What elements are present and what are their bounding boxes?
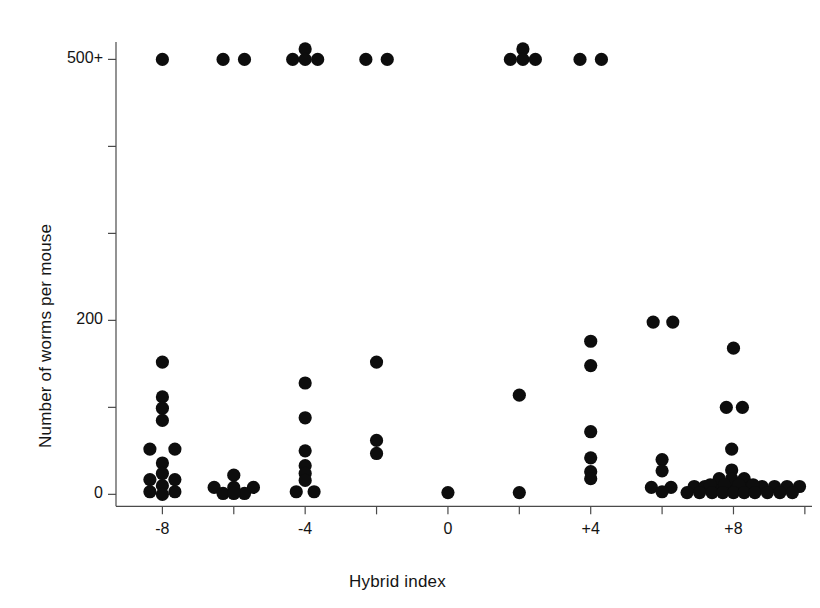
data-point xyxy=(290,485,303,498)
data-point-layer xyxy=(143,42,806,501)
data-point xyxy=(370,447,383,460)
data-point xyxy=(595,53,608,66)
data-point xyxy=(727,342,740,355)
data-point xyxy=(573,53,586,66)
data-point xyxy=(504,53,517,66)
data-point xyxy=(156,402,169,415)
x-tick-label: +8 xyxy=(703,520,763,538)
x-tick-label: +4 xyxy=(561,520,621,538)
data-point xyxy=(513,486,526,499)
plot-canvas xyxy=(0,0,820,608)
data-point xyxy=(216,53,229,66)
data-point xyxy=(370,356,383,369)
data-point xyxy=(143,473,156,486)
data-point xyxy=(359,53,372,66)
axis-tick-marks xyxy=(108,59,805,514)
data-point xyxy=(655,485,668,498)
data-point xyxy=(168,485,181,498)
data-point xyxy=(584,425,597,438)
data-point xyxy=(748,486,761,499)
x-axis-title: Hybrid index xyxy=(349,572,446,592)
data-point xyxy=(299,53,312,66)
data-point xyxy=(299,411,312,424)
data-point xyxy=(238,53,251,66)
data-point xyxy=(786,486,799,499)
data-point xyxy=(529,53,542,66)
data-point xyxy=(168,473,181,486)
data-point xyxy=(666,316,679,329)
y-tick-label: 200 xyxy=(48,310,103,328)
data-point xyxy=(286,53,299,66)
data-point xyxy=(516,53,529,66)
data-point xyxy=(513,389,526,402)
data-point xyxy=(381,53,394,66)
data-point xyxy=(299,444,312,457)
data-point xyxy=(736,401,749,414)
data-point xyxy=(647,316,660,329)
data-point xyxy=(584,359,597,372)
data-point xyxy=(307,485,320,498)
x-tick-label: -4 xyxy=(275,520,335,538)
y-axis-title: Number of worms per mouse xyxy=(36,224,56,448)
data-point xyxy=(227,469,240,482)
data-point xyxy=(156,488,169,501)
data-point xyxy=(773,486,786,499)
data-point xyxy=(680,486,693,499)
data-point xyxy=(156,414,169,427)
y-tick-label: 500+ xyxy=(48,49,103,67)
data-point xyxy=(584,472,597,485)
data-point xyxy=(156,390,169,403)
x-tick-label: -8 xyxy=(132,520,192,538)
data-point xyxy=(143,485,156,498)
data-point xyxy=(168,443,181,456)
scatter-plot-figure: 0200500+ -8-40+4+8 Number of worms per m… xyxy=(0,0,820,608)
y-tick-label: 0 xyxy=(48,484,103,502)
data-point xyxy=(584,451,597,464)
data-point xyxy=(761,486,774,499)
data-point xyxy=(156,467,169,480)
data-point xyxy=(156,356,169,369)
data-point xyxy=(720,401,733,414)
data-point xyxy=(655,464,668,477)
data-point xyxy=(693,486,706,499)
data-point xyxy=(370,434,383,447)
x-tick-label: 0 xyxy=(418,520,478,538)
data-point xyxy=(441,486,454,499)
data-point xyxy=(584,335,597,348)
data-point xyxy=(299,474,312,487)
data-point xyxy=(655,453,668,466)
data-point xyxy=(725,443,738,456)
data-point xyxy=(156,53,169,66)
data-point xyxy=(311,53,324,66)
axis-lines xyxy=(116,42,812,506)
data-point xyxy=(299,376,312,389)
data-point xyxy=(227,487,240,500)
data-point xyxy=(143,443,156,456)
